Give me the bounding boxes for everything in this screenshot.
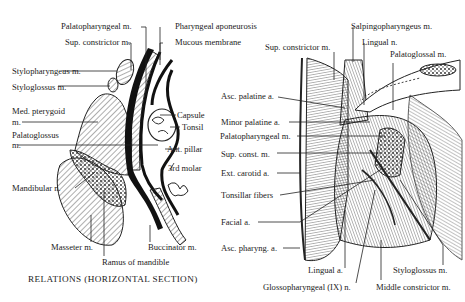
label-capsule: Capsule: [177, 110, 205, 120]
label-palatopharyngeal-m-right: Palatopharyngeal m.: [220, 131, 291, 141]
label-sup-const-m: Sup. const. m.: [221, 149, 270, 159]
label-palatoglossus-m: m.: [12, 140, 21, 150]
label-lingual-a: Lingual a.: [308, 265, 343, 275]
label-styloglossus-m: Styloglossus m.: [12, 82, 66, 92]
label-mucous-membrane: Mucous membrane: [175, 37, 241, 47]
left-section-drawing: [18, 27, 188, 256]
label-ramus-of-mandible: Ramus of mandible: [102, 257, 169, 267]
label-sup-constrictor-m: Sup. constrictor m.: [65, 37, 130, 47]
label-facial-a: Facial a.: [221, 217, 250, 227]
label-buccinator-m: Buccinator m.: [148, 242, 197, 252]
label-masseter-m: Masseter m.: [51, 242, 93, 252]
label-ext-carotid-a: Ext. carotid a.: [221, 168, 269, 178]
label-asc-palatine-a: Asc. palatine a.: [221, 91, 274, 101]
label-palatoglossal-m: Palatoglossal m.: [390, 49, 446, 59]
label-lingual-n: Lingual n.: [362, 37, 397, 47]
label-asc-pharyng-a: Asc. pharyng. a.: [221, 243, 277, 253]
label-pharyngeal-aponeurosis: Pharyngeal aponeurosis: [175, 21, 257, 31]
label-salpingopharyngeus-m: Salpingopharyngeus m.: [351, 21, 432, 31]
label-styloglossus-m-right: Styloglossus m.: [393, 265, 447, 275]
label-palatopharyngeal-m: Palatopharyngeal m.: [61, 21, 132, 31]
label-ant-pillar: Ant. pillar: [167, 144, 202, 154]
label-3rd-molar: 3rd molar: [168, 163, 202, 173]
label-glossopharyngeal-ix-n: Glossopharyngeal (IX) n.: [263, 282, 351, 292]
label-med-pterygoid: Med. pterygoid: [12, 106, 65, 116]
right-dissection-drawing: [258, 27, 462, 283]
label-tonsil: Tonsil: [182, 122, 203, 132]
label-palatoglossus: Palatoglossus: [12, 130, 59, 140]
label-med-pterygoid-m: m.: [12, 117, 21, 127]
label-stylopharyngeus-m: Stylopharyngeus m.: [12, 66, 81, 76]
label-tonsillar-fibers: Tonsillar fibers: [221, 190, 273, 200]
label-middle-constrictor-m: Middle constrictor m.: [376, 282, 451, 292]
label-minor-palatine-a: Minor palatine a.: [221, 117, 280, 127]
diagram-caption: RELATIONS (HORIZONTAL SECTION): [28, 274, 198, 284]
label-mandibular-n: Mandibular n.: [12, 183, 61, 193]
label-sup-constrictor-m-right: Sup. constrictor m.: [265, 42, 330, 52]
